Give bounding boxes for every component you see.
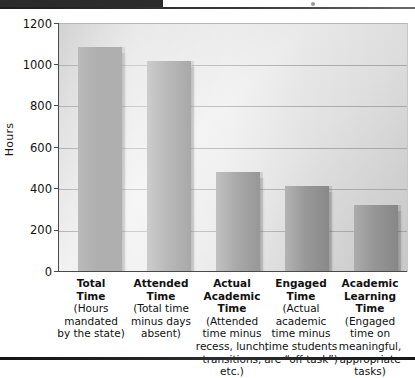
cat-subtitle: by the state) [56,327,126,340]
cat-subtitle: mandated [56,315,126,328]
cat-subtitle: etc.) [191,365,273,378]
cat-heading: Learning [330,290,410,303]
category-label-academic-learning-time: Academic Learning Time (Engaged time on … [330,277,410,378]
y-tick-label-200: 200 [0,223,52,237]
cat-heading: Attended [125,277,197,290]
x-axis-line [58,271,407,272]
cat-subtitle: (Engaged [330,315,410,328]
cat-subtitle: (Hours [56,302,126,315]
scan-artifact-top-smudge [0,0,163,7]
y-axis-title: Hours [3,114,16,166]
cat-subtitle: time on [330,327,410,340]
cat-subtitle: tasks) [330,365,410,378]
cat-subtitle: meaningful, [330,340,410,353]
cat-subtitle: absent) [125,327,197,340]
scan-artifact-speck [311,2,315,6]
cat-heading: Time [125,290,197,303]
y-tick-label-0: 0 [0,265,52,279]
bar-total-time [78,47,122,272]
bar-engaged-time [285,186,329,272]
y-tick-label-400: 400 [0,182,52,196]
page-rule-bottom [0,357,415,360]
y-tick-label-800: 800 [0,99,52,113]
y-tick-label-600: 600 [0,141,52,155]
category-label-attended-time: Attended Time (Total time minus days abs… [125,277,197,340]
cat-subtitle: (Total time [125,302,197,315]
cat-heading: Time [330,302,410,315]
bar-academic-learning-time [354,205,398,272]
cat-heading: Time [56,290,126,303]
cat-heading: Total [56,277,126,290]
cat-heading: Academic [330,277,410,290]
category-label-total-time: Total Time (Hours mandated by the state) [56,277,126,340]
bar-chart: Hours 1200 1000 800 600 400 200 0 Total … [0,9,415,357]
y-tick-label-1000: 1000 [0,58,52,72]
plot-area [59,23,408,272]
y-axis-line [58,23,59,272]
bar-attended-time [147,61,191,272]
cat-subtitle: minus days [125,315,197,328]
bar-actual-academic-time [216,172,260,272]
y-tick-label-1200: 1200 [0,17,52,31]
